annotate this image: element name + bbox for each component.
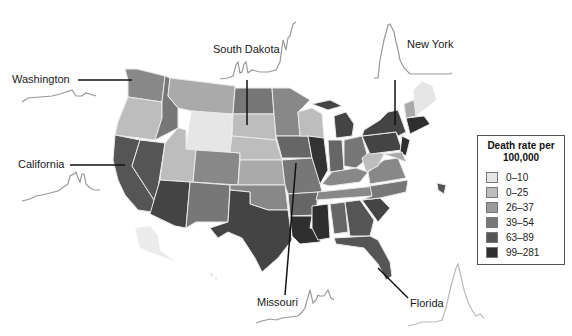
- label-missouri: Missouri: [257, 296, 298, 308]
- state-hawaii: [208, 272, 218, 282]
- us-death-rate-map: Washington South Dakota New York Califor…: [0, 0, 572, 336]
- legend-item: 0–25: [486, 185, 564, 200]
- sparkline-california: [22, 172, 100, 201]
- state-indiana: [328, 140, 344, 172]
- state-maine: [414, 82, 436, 116]
- legend-item: 39–54: [486, 215, 564, 230]
- sparkline-florida: [408, 264, 484, 326]
- label-new-york: New York: [407, 38, 453, 50]
- legend-label: 99–281: [506, 247, 539, 258]
- state-alaska: [135, 226, 176, 262]
- leader-florida: [378, 268, 408, 298]
- state-north-dakota: [233, 88, 274, 114]
- legend-item: 99–281: [486, 245, 564, 260]
- legend-label: 26–37: [506, 202, 534, 213]
- legend-swatch: [486, 187, 498, 198]
- label-washington: Washington: [12, 73, 70, 85]
- sparkline-washington: [22, 90, 96, 102]
- legend-title-line2: 100,000: [478, 152, 564, 164]
- legend-swatch: [486, 217, 498, 228]
- sparkline-new-york: [374, 24, 452, 78]
- label-florida: Florida: [410, 297, 444, 309]
- state-new-york: [362, 110, 406, 136]
- legend-swatch: [486, 172, 498, 183]
- legend-label: 39–54: [506, 217, 534, 228]
- state-vermont-nh: [404, 100, 416, 118]
- state-kentucky: [322, 168, 368, 186]
- state-new-mexico: [186, 182, 230, 228]
- label-south-dakota: South Dakota: [213, 43, 280, 55]
- legend-item: 0–10: [486, 170, 564, 185]
- legend-label: 0–25: [506, 187, 528, 198]
- state-iowa: [276, 136, 312, 158]
- legend-label: 0–10: [506, 172, 528, 183]
- legend-item: 26–37: [486, 200, 564, 215]
- state-colorado: [193, 150, 240, 185]
- state-oregon: [115, 97, 162, 140]
- legend-label: 63–89: [506, 232, 534, 243]
- legend-title: Death rate per 100,000: [478, 140, 564, 164]
- legend-swatch: [486, 202, 498, 213]
- label-california: California: [18, 158, 64, 170]
- state-new-england-south: [406, 116, 430, 134]
- state-kansas: [238, 160, 285, 185]
- legend-item: 63–89: [486, 230, 564, 245]
- legend: Death rate per 100,000 0–10 0–25 26–37 3…: [477, 135, 565, 265]
- state-wyoming: [186, 111, 232, 152]
- state-wisconsin: [298, 108, 324, 138]
- legend-swatch: [486, 232, 498, 243]
- state-puerto-rico: [437, 183, 446, 194]
- legend-title-line1: Death rate per: [478, 140, 564, 152]
- legend-swatch: [486, 247, 498, 258]
